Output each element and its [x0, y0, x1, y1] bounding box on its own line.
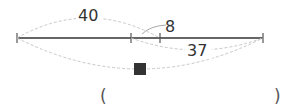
answer-close-paren: ): [274, 86, 281, 106]
label-8: 8: [165, 17, 175, 36]
segment-diagram: 40 8 37 ( ): [0, 0, 287, 110]
answer-open-paren: (: [100, 86, 107, 106]
label-37: 37: [187, 41, 207, 60]
arc-8-pointer: [142, 25, 166, 34]
label-40: 40: [78, 6, 98, 25]
unknown-square-icon: [134, 63, 146, 75]
